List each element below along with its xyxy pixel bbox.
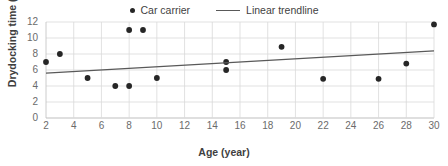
y-tick-label: 12 (18, 17, 38, 27)
x-tick-label: 24 (340, 121, 362, 131)
y-axis-ticks: 024681012 (0, 22, 42, 118)
x-axis-title: Age (year) (0, 146, 448, 158)
data-point (320, 76, 326, 82)
data-point (403, 61, 409, 67)
data-point (126, 83, 132, 89)
x-tick-label: 6 (90, 121, 112, 131)
y-tick-label: 2 (18, 97, 38, 107)
x-axis-ticks: 24681012141618202224262830 (46, 121, 434, 137)
x-tick-label: 10 (146, 121, 168, 131)
chart-legend: Car carrier Linear trendline (0, 2, 448, 18)
x-tick-label: 12 (174, 121, 196, 131)
x-tick-label: 28 (395, 121, 417, 131)
legend-entry-linear-trendline: Linear trendline (216, 5, 318, 16)
data-point (376, 76, 382, 82)
x-tick-label: 4 (63, 121, 85, 131)
data-layer (46, 22, 434, 118)
line-marker-icon (216, 10, 240, 11)
data-point (431, 22, 437, 28)
y-tick-label: 6 (18, 65, 38, 75)
y-tick-label: 4 (18, 81, 38, 91)
data-point (279, 44, 285, 50)
y-tick-label: 8 (18, 49, 38, 59)
scatter-chart: Car carrier Linear trendline Drydocking … (0, 0, 448, 166)
x-tick-label: 18 (257, 121, 279, 131)
data-point (85, 75, 91, 81)
x-tick-label: 8 (118, 121, 140, 131)
data-point (223, 67, 229, 73)
data-point (154, 75, 160, 81)
data-point (112, 83, 118, 89)
x-tick-label: 16 (229, 121, 251, 131)
data-point (126, 27, 132, 33)
data-point (140, 27, 146, 33)
legend-entry-car-carrier: Car carrier (130, 5, 191, 16)
legend-label-car-carrier: Car carrier (141, 5, 191, 16)
scatter-marker-icon (130, 8, 135, 13)
x-tick-label: 14 (201, 121, 223, 131)
plot-area (46, 22, 434, 118)
x-tick-label: 26 (368, 121, 390, 131)
data-point (43, 59, 49, 65)
x-tick-label: 20 (284, 121, 306, 131)
data-point (57, 51, 63, 57)
x-tick-label: 22 (312, 121, 334, 131)
x-tick-label: 2 (35, 121, 57, 131)
data-point (223, 59, 229, 65)
x-tick-label: 30 (423, 121, 445, 131)
y-tick-label: 10 (18, 33, 38, 43)
trendline (46, 51, 434, 73)
legend-label-linear-trendline: Linear trendline (246, 5, 318, 16)
